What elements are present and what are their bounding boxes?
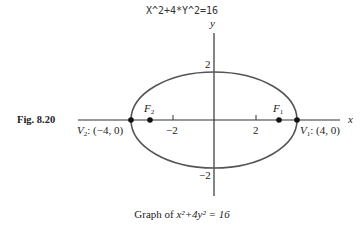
focus-f2-label: F2 bbox=[143, 102, 155, 116]
vertex-v2-point bbox=[128, 117, 134, 123]
focus-f1-label: F1 bbox=[272, 102, 284, 116]
tick-label-x-neg2: −2 bbox=[166, 124, 178, 136]
vertex-v1-point bbox=[294, 117, 300, 123]
caption-prefix: Graph of bbox=[134, 208, 176, 220]
focus-f1-point bbox=[276, 117, 282, 123]
y-axis-label: y bbox=[209, 17, 215, 29]
focus-f2-point bbox=[147, 117, 153, 123]
tick-label-y-2: 2 bbox=[205, 58, 211, 70]
tick-label-y-neg2: −2 bbox=[199, 169, 211, 181]
caption-equation: x²+4y² = 16 bbox=[176, 208, 229, 220]
x-axis-label: x bbox=[347, 113, 353, 125]
vertex-v2-label: V2: (−4, 0) bbox=[77, 124, 123, 138]
figure-caption: Graph of x²+4y² = 16 bbox=[0, 208, 364, 220]
vertex-v1-label: V1: (4, 0) bbox=[300, 124, 340, 138]
figure-label: Fig. 8.20 bbox=[17, 114, 55, 125]
tick-label-x-2: 2 bbox=[253, 124, 259, 136]
